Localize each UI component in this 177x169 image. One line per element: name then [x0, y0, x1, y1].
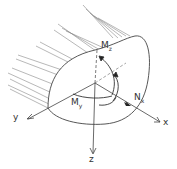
- nx-label: Nx: [134, 93, 144, 104]
- nx-label-main: N: [134, 92, 141, 102]
- my-label-sub: y: [79, 102, 83, 109]
- cross-section-outline: [48, 36, 149, 125]
- axis-y-label: y: [13, 113, 18, 122]
- my-label-main: M: [71, 97, 79, 107]
- my-label: My: [71, 98, 82, 109]
- nx-label-sub: x: [141, 97, 145, 104]
- axis-z-label: z: [89, 155, 94, 164]
- axis-x-label: x: [163, 118, 168, 127]
- mz-label-sub: z: [109, 45, 112, 52]
- mz-label-main: M: [101, 40, 109, 50]
- mz-label: Mz: [101, 41, 112, 52]
- beam-section-diagram: [0, 0, 177, 169]
